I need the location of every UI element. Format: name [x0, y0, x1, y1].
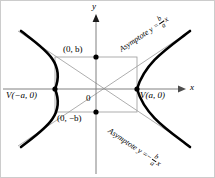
y-axis-arrowhead — [93, 14, 100, 22]
point-vertex-left — [52, 86, 57, 91]
point-label-vertex-left: V(−a, 0) — [6, 91, 37, 100]
point-co-vertex-bottom — [93, 109, 98, 114]
y-axis-label: y — [92, 2, 96, 11]
point-vertex-right — [134, 86, 139, 91]
point-label-co-vertex-bottom: (0, −b) — [57, 114, 82, 123]
x-axis-label: x — [190, 83, 194, 92]
origin-label: 0 — [86, 94, 91, 103]
point-label-vertex-right: V(a, 0) — [140, 91, 165, 100]
figure-canvas — [0, 0, 215, 178]
hyperbola-figure: y x 0 (0, b) (0, −b) V(−a, 0) V(a, 0) As… — [0, 0, 215, 178]
x-axis-arrowhead — [178, 86, 186, 93]
point-co-vertex-top — [93, 54, 98, 59]
point-label-co-vertex-top: (0, b) — [63, 45, 83, 54]
